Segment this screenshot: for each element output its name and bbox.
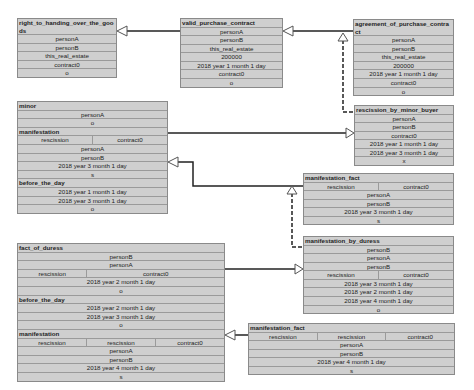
attribute: 2018 year 1 month 1 day (181, 62, 282, 71)
attribute: 2018 year 2 month 1 day (18, 278, 224, 287)
class-valid-purchase-contract[interactable]: valid_purchase_contract personA personB … (180, 18, 283, 88)
attribute: rescission (249, 333, 318, 341)
class-rescission-by-minor-buyer[interactable]: rescission_by_minor_buyer personA person… (354, 105, 454, 166)
attribute: personB (18, 44, 116, 53)
attribute: personA (304, 254, 453, 263)
class-right-to-handing-over-the-goods[interactable]: right_to_handing_over_the_goods personA … (17, 18, 117, 78)
attribute: s (304, 217, 453, 225)
attribute: o (18, 287, 224, 296)
attribute: personA (304, 191, 453, 200)
attribute: personB (18, 253, 224, 262)
attribute: o (18, 321, 224, 330)
attribute: 200000 (354, 62, 453, 71)
attribute: s (249, 367, 454, 375)
section-title: before_the_day (18, 179, 167, 188)
attribute: 2018 year 4 month 1 day (304, 297, 453, 306)
attribute: personA (18, 35, 116, 44)
attribute-split: rescission rescission contract0 (18, 339, 224, 348)
attribute: this_real_estate (18, 52, 116, 61)
attribute: x (355, 157, 453, 165)
attribute: rescission (87, 339, 156, 347)
attribute: o (18, 69, 116, 77)
class-title: manifestation_fact (304, 174, 453, 183)
attribute: personA (249, 341, 454, 350)
attribute: 2018 year 3 month 1 day (18, 162, 167, 171)
attribute: personB (354, 45, 453, 54)
attribute: contract0 (379, 183, 453, 191)
attribute: this_real_estate (181, 45, 282, 54)
attribute: personB (304, 263, 453, 272)
attribute: 2018 year 3 month 1 day (304, 208, 453, 217)
attribute: personB (249, 350, 454, 359)
attribute: contract0 (355, 132, 453, 141)
class-title: valid_purchase_contract (181, 19, 282, 28)
class-title: manifestation_by_duress (304, 237, 453, 246)
attribute: 2018 year 1 month 1 day (18, 188, 167, 197)
attribute: personB (304, 200, 453, 209)
attribute: contract0 (18, 61, 116, 70)
attribute: this_real_estate (354, 53, 453, 62)
attribute: o (304, 306, 453, 314)
attribute: 200000 (181, 53, 282, 62)
attribute: 2018 year 4 month 1 day (249, 358, 454, 367)
attribute-split: rescission contract0 (18, 136, 167, 145)
attribute: contract0 (156, 339, 224, 347)
attribute-split: rescission contract0 (304, 271, 453, 280)
attribute: rescission (304, 271, 379, 279)
section-title: minor (18, 102, 167, 111)
class-title: rescission_by_minor_buyer (355, 106, 453, 115)
attribute: contract0 (93, 136, 167, 144)
attribute: s (18, 171, 167, 180)
attribute: 2018 year 3 month 1 day (18, 197, 167, 206)
attribute: personA (18, 261, 224, 270)
attribute: personB (355, 123, 453, 132)
attribute: 2018 year 4 month 1 day (18, 364, 224, 373)
section-title: before_the_day (18, 296, 224, 305)
attribute-split: rescission rescission contract0 (249, 333, 454, 342)
attribute: personB (304, 246, 453, 255)
attribute: rescission (18, 270, 87, 278)
section-title: manifestation (18, 128, 167, 137)
section-title: manifestation (18, 330, 224, 339)
attribute: contract0 (386, 333, 454, 341)
attribute: 2018 year 3 month 1 day (355, 149, 453, 158)
attribute: personA (354, 36, 453, 45)
attribute: o (18, 119, 167, 128)
attribute: rescission (18, 339, 87, 347)
attribute: personA (18, 145, 167, 154)
attribute: contract0 (87, 270, 224, 278)
attribute: personA (18, 347, 224, 356)
attribute: o (181, 79, 282, 87)
attribute: personA (18, 111, 167, 120)
class-title: manifestation_fact (249, 324, 454, 333)
attribute: rescission (304, 183, 379, 191)
attribute: 2018 year 2 month 1 day (18, 304, 224, 313)
attribute: contract0 (181, 70, 282, 79)
attribute: personB (18, 356, 224, 365)
attribute: rescission (18, 136, 93, 144)
attribute: rescission (318, 333, 387, 341)
attribute: personA (355, 115, 453, 124)
attribute: o (18, 205, 167, 213)
attribute: contract0 (379, 271, 453, 279)
class-duress-group[interactable]: fact_of_duress personB personA rescissio… (17, 243, 225, 382)
attribute: s (18, 373, 224, 381)
class-manifestation-fact[interactable]: manifestation_fact rescission contract0 … (303, 173, 454, 225)
attribute: 2018 year 3 month 1 day (18, 313, 224, 322)
attribute-split: rescission contract0 (304, 183, 453, 192)
class-minor-group[interactable]: minor personA o manifestation rescission… (17, 101, 168, 214)
class-manifestation-fact-2[interactable]: manifestation_fact rescission rescission… (248, 323, 455, 375)
attribute: o (354, 88, 453, 96)
attribute: 2018 year 1 month 1 day (355, 140, 453, 149)
attribute: 2018 year 3 month 1 day (304, 280, 453, 289)
attribute: personB (18, 154, 167, 163)
class-manifestation-by-duress[interactable]: manifestation_by_duress personB personA … (303, 236, 454, 314)
attribute: 2018 year 2 month 1 day (304, 288, 453, 297)
class-title: agreement_of_purchase_contract (354, 20, 453, 36)
attribute-split: rescission contract0 (18, 270, 224, 279)
attribute: personB (181, 36, 282, 45)
class-agreement-of-purchase-contract[interactable]: agreement_of_purchase_contract personA p… (353, 19, 454, 96)
attribute: 2018 year 1 month 1 day (354, 70, 453, 79)
attribute: personA (181, 28, 282, 37)
class-title: right_to_handing_over_the_goods (18, 19, 116, 35)
